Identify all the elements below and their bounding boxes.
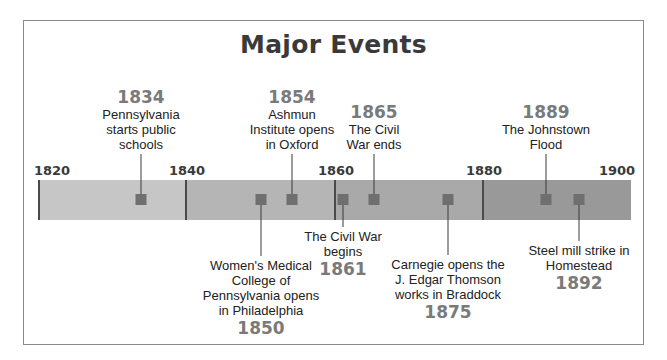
tick-label-1840: 1840 bbox=[169, 163, 205, 178]
event-year: 1892 bbox=[528, 273, 629, 293]
event-marker-1834 bbox=[136, 194, 147, 205]
event-marker-1861 bbox=[338, 194, 349, 205]
event-label-1854: 1854AshmunInstitute opensin Oxford bbox=[250, 87, 335, 152]
event-connector-1865 bbox=[374, 154, 375, 194]
event-description: Women's MedicalCollege ofPennsylvania op… bbox=[203, 258, 319, 318]
event-marker-1889 bbox=[541, 194, 552, 205]
event-description: Steel mill strike inHomestead bbox=[528, 243, 629, 273]
tick-label-1880: 1880 bbox=[466, 163, 502, 178]
event-label-1889: 1889The JohnstownFlood bbox=[502, 102, 590, 152]
event-marker-1850 bbox=[256, 194, 267, 205]
event-connector-1854 bbox=[292, 154, 293, 194]
event-label-1861: The Civil Warbegins1861 bbox=[304, 229, 382, 279]
timeline-segment-1860-1880 bbox=[335, 180, 483, 220]
event-year: 1875 bbox=[391, 302, 504, 322]
timeline-segment-1820-1840 bbox=[38, 180, 186, 220]
event-connector-1875 bbox=[448, 205, 449, 255]
event-description: Carnegie opens theJ. Edgar Thomsonworks … bbox=[391, 257, 504, 302]
event-year: 1889 bbox=[502, 102, 590, 122]
event-marker-1875 bbox=[443, 194, 454, 205]
timeline-segment-1880-1900 bbox=[483, 180, 631, 220]
event-year: 1861 bbox=[304, 259, 382, 279]
event-marker-1865 bbox=[369, 194, 380, 205]
divider-1860 bbox=[334, 180, 336, 220]
event-label-1892: Steel mill strike inHomestead1892 bbox=[528, 243, 629, 293]
event-description: The CivilWar ends bbox=[346, 122, 401, 152]
event-description: The Civil Warbegins bbox=[304, 229, 382, 259]
tick-label-1860: 1860 bbox=[318, 163, 354, 178]
event-label-1875: Carnegie opens theJ. Edgar Thomsonworks … bbox=[391, 257, 504, 322]
event-description: The JohnstownFlood bbox=[502, 122, 590, 152]
event-connector-1861 bbox=[343, 205, 344, 227]
divider-1820 bbox=[38, 180, 40, 220]
tick-label-1900: 1900 bbox=[599, 163, 635, 178]
divider-1880 bbox=[482, 180, 484, 220]
tick-label-1820: 1820 bbox=[34, 163, 70, 178]
event-label-1834: 1834Pennsylvaniastarts publicschools bbox=[102, 87, 179, 152]
event-year: 1854 bbox=[250, 87, 335, 107]
event-connector-1834 bbox=[141, 154, 142, 194]
event-marker-1854 bbox=[287, 194, 298, 205]
event-marker-1892 bbox=[574, 194, 585, 205]
event-connector-1850 bbox=[261, 205, 262, 256]
event-connector-1892 bbox=[579, 205, 580, 241]
event-year: 1865 bbox=[346, 102, 401, 122]
event-year: 1834 bbox=[102, 87, 179, 107]
event-year: 1850 bbox=[203, 318, 319, 338]
event-label-1850: Women's MedicalCollege ofPennsylvania op… bbox=[203, 258, 319, 338]
event-label-1865: 1865The CivilWar ends bbox=[346, 102, 401, 152]
event-connector-1889 bbox=[546, 154, 547, 194]
event-description: Pennsylvaniastarts publicschools bbox=[102, 107, 179, 152]
event-description: AshmunInstitute opensin Oxford bbox=[250, 107, 335, 152]
diagram-title: Major Events bbox=[0, 30, 667, 59]
divider-1840 bbox=[185, 180, 187, 220]
